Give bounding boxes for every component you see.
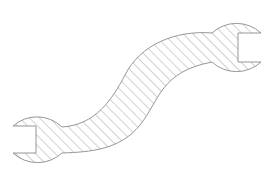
wrench-drawing: [0, 0, 270, 188]
wrench-outline: [13, 23, 261, 162]
wrench-svg: [0, 0, 270, 188]
